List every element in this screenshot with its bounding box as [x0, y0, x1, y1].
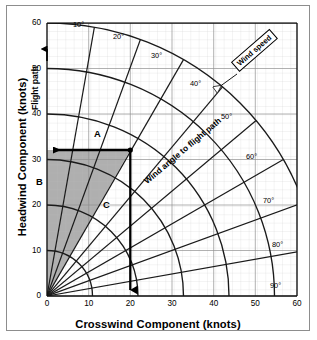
angle-label-30: 30° — [151, 51, 162, 60]
figure-frame: 60 50 40 30 20 10 0 0 10 20 30 40 50 60 … — [6, 5, 310, 331]
angle-label-50: 50° — [221, 112, 232, 121]
x-axis-title: Crosswind Component (knots) — [7, 318, 309, 330]
y-tick-label-60: 60 — [13, 18, 41, 27]
angle-label-70: 70° — [263, 196, 274, 205]
x-tick-label-30: 30 — [161, 299, 183, 308]
angle-label-90: 90° — [270, 281, 281, 290]
x-tick-label-20: 20 — [119, 299, 141, 308]
region-label-a: A — [94, 128, 101, 139]
region-label-b: B — [36, 176, 43, 187]
x-tick-label-50: 50 — [244, 299, 266, 308]
x-tick-label-10: 10 — [78, 299, 100, 308]
y-axis-title: Headwind Component (knots) — [16, 57, 28, 257]
x-tick-label-0: 0 — [36, 299, 58, 308]
angle-label-10: 10° — [73, 20, 84, 29]
angle-label-20: 20° — [113, 32, 124, 41]
region-label-c: C — [103, 199, 110, 210]
angle-label-80: 80° — [272, 240, 283, 249]
plotted-point — [128, 147, 133, 152]
angle-label-40: 40° — [190, 79, 201, 88]
figure-root: 60 50 40 30 20 10 0 0 10 20 30 40 50 60 … — [0, 0, 317, 340]
flight-path-label: Flight path — [30, 57, 40, 119]
x-tick-label-60: 60 — [286, 299, 308, 308]
angle-label-60: 60° — [246, 152, 257, 161]
x-tick-label-40: 40 — [203, 299, 225, 308]
